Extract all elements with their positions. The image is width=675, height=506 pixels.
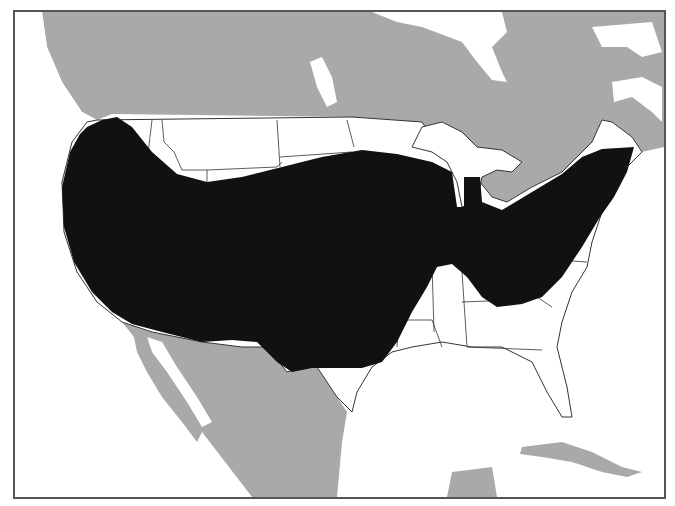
range-map xyxy=(15,12,664,497)
cuba-land xyxy=(520,442,642,477)
yucatan-land xyxy=(447,467,497,497)
map-frame xyxy=(13,10,666,499)
